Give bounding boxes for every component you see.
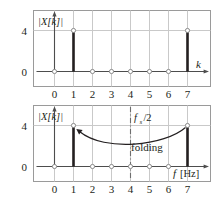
panel-bottom-xlabel-unit: [Hz]: [180, 168, 199, 179]
panel-top-xtick-7: 7: [185, 88, 191, 100]
panel-bottom-xtick-7: 7: [185, 183, 191, 195]
panel-top-xticks: 0 1 2 3 4 5 6 7: [52, 88, 191, 100]
spectrum-folding-figure: 4 0 |X[k]| k 0 1 2 3 4 5 6 7: [0, 0, 220, 206]
stem-f1-marker: [71, 123, 75, 127]
panel-bottom-xtick-3: 3: [109, 183, 115, 195]
panel-top-xtick-0: 0: [52, 88, 58, 100]
panel-bottom-xtick-5: 5: [147, 183, 153, 195]
panel-top-xtick-6: 6: [166, 88, 172, 100]
panel-top-ytick-0: 0: [22, 66, 28, 78]
panel-bottom-xtick-1: 1: [71, 183, 77, 195]
panel-bottom-xtick-2: 2: [90, 183, 96, 195]
panel-top-xtick-5: 5: [147, 88, 153, 100]
panel-bottom-xtick-0: 0: [52, 183, 58, 195]
panel-bottom-ytick-4: 4: [22, 120, 28, 132]
panel-top-xtick-1: 1: [71, 88, 77, 100]
folding-label: folding: [131, 141, 163, 153]
figure-container: 4 0 |X[k]| k 0 1 2 3 4 5 6 7: [0, 0, 220, 206]
stem-f7-marker: [185, 123, 189, 127]
panel-bottom-xticks: 0 1 2 3 4 5 6 7: [52, 183, 191, 195]
panel-bottom-xtick-6: 6: [166, 183, 172, 195]
panel-top-ylabel: |X[k]|: [38, 16, 63, 27]
panel-top-xtick-4: 4: [128, 88, 134, 100]
nyquist-label-sub: s: [140, 118, 143, 126]
panel-top: 4 0 |X[k]| k 0 1 2 3 4 5 6 7: [22, 11, 211, 101]
panel-top-ytick-4: 4: [22, 25, 28, 37]
stem-k1-marker: [71, 28, 75, 32]
panel-top-xtick-2: 2: [90, 88, 96, 100]
panel-bottom-xtick-4: 4: [128, 183, 134, 195]
nyquist-label-rest: /2: [143, 112, 151, 123]
stem-k7-marker: [185, 28, 189, 32]
panel-bottom-ylabel: |X[k]|: [38, 111, 63, 122]
panel-bottom: f s /2 folding 4 0 |X[k]| f [Hz] 0 1 2 3…: [22, 106, 211, 196]
panel-bottom-ytick-0: 0: [22, 161, 28, 173]
panel-top-xtick-3: 3: [109, 88, 115, 100]
